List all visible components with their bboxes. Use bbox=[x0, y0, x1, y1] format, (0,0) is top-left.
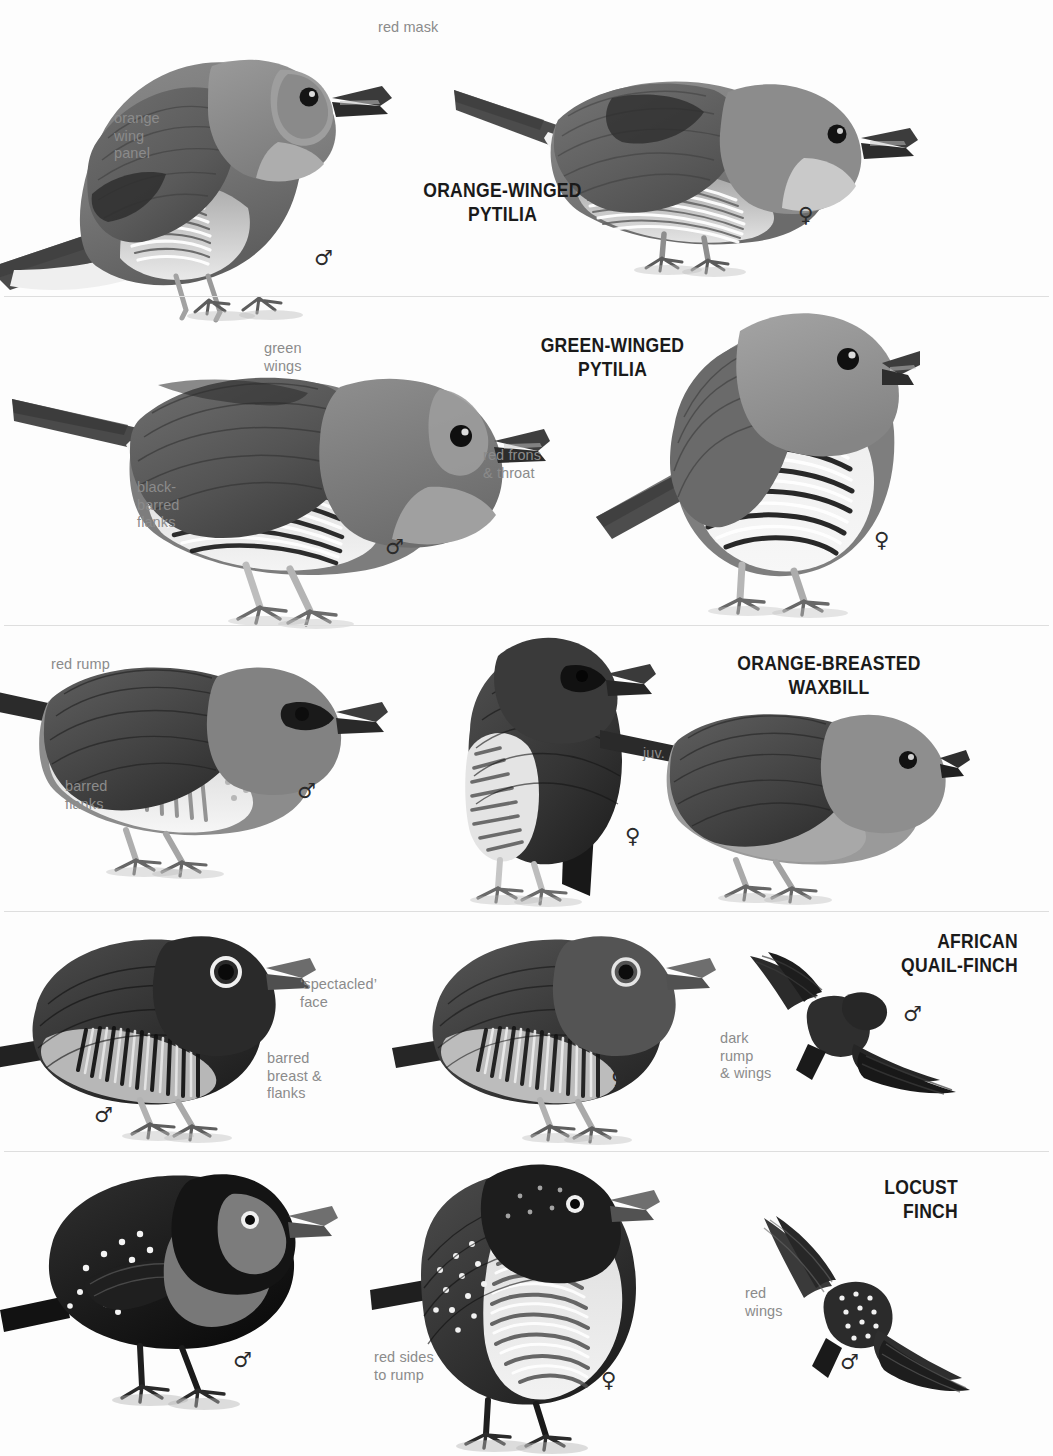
annotation-red-mask: red mask bbox=[378, 19, 438, 37]
sex-symbol-female: ♀ bbox=[798, 205, 813, 226]
sex-symbol-male-flight: ♂ bbox=[903, 1004, 922, 1025]
bird-locust-finch-female bbox=[370, 1160, 680, 1450]
bird-african-quail-finch-female bbox=[390, 934, 720, 1149]
annotation-juvenile: juv. bbox=[643, 745, 665, 763]
sex-symbol-female: ♀ bbox=[601, 1370, 616, 1391]
species-title-orange-winged-pytilia: ORANGE-WINGED PYTILIA bbox=[406, 178, 600, 226]
annotation-barred-flanks: barred flanks bbox=[65, 778, 108, 813]
sex-symbol-female: ♀ bbox=[874, 530, 889, 551]
sex-symbol-male: ♂ bbox=[233, 1350, 252, 1371]
annotation-red-frons-and-throat: red frons & throat bbox=[483, 447, 541, 482]
species-panel-african-quail-finch: ‘spectacled’ face barred breast & flanks… bbox=[0, 912, 1053, 1152]
annotation-barred-breast-and-flanks: barred breast & flanks bbox=[267, 1050, 322, 1103]
annotation-dark-rump-and-wings: dark rump & wings bbox=[720, 1030, 771, 1083]
bird-orange-winged-pytilia-female bbox=[452, 62, 922, 272]
annotation-red-sides-to-rump: red sides to rump bbox=[374, 1349, 434, 1384]
species-title-green-winged-pytilia: GREEN-WINGED PYTILIA bbox=[516, 333, 710, 381]
sex-symbol-male: ♂ bbox=[297, 781, 316, 802]
sex-symbol-male: ♂ bbox=[314, 248, 333, 269]
bird-orange-winged-pytilia-male bbox=[0, 18, 400, 323]
bird-green-winged-pytilia-male bbox=[10, 359, 550, 624]
species-title-african-quail-finch: AFRICAN QUAIL-FINCH bbox=[748, 929, 1018, 977]
sex-symbol-male-flight: ♂ bbox=[840, 1352, 859, 1373]
bird-orange-breasted-waxbill-male bbox=[0, 654, 390, 879]
annotation-orange-wing-panel: orange wing panel bbox=[114, 110, 160, 163]
species-panel-orange-breasted-waxbill: red rump barred flanks juv. ORANGE-BREAS… bbox=[0, 626, 1053, 912]
species-panel-locust-finch: red sides to rump red wings LOCUST FINCH… bbox=[0, 1152, 1053, 1456]
bird-orange-breasted-waxbill-juvenile bbox=[600, 704, 970, 884]
bird-locust-finch-male bbox=[0, 1172, 360, 1442]
annotation-black-barred-flanks: black- barred flanks bbox=[137, 479, 180, 532]
species-panel-green-winged-pytilia: green wings black- barred flanks red fro… bbox=[0, 297, 1053, 626]
annotation-red-wings: red wings bbox=[745, 1285, 783, 1320]
annotation-red-rump: red rump bbox=[51, 656, 110, 674]
annotation-green-wings: green wings bbox=[264, 340, 302, 375]
sex-symbol-female: ♀ bbox=[611, 1069, 626, 1090]
species-title-orange-breasted-waxbill: ORANGE-BREASTED WAXBILL bbox=[712, 651, 946, 699]
bird-african-quail-finch-male bbox=[0, 930, 320, 1140]
sex-symbol-male: ♂ bbox=[385, 537, 404, 558]
annotation-spectacled-face: ‘spectacled’ face bbox=[300, 976, 377, 1011]
species-panel-orange-winged-pytilia: red mask orange wing panel ORANGE-WINGED… bbox=[0, 0, 1053, 297]
sex-symbol-male: ♂ bbox=[94, 1105, 113, 1126]
species-title-locust-finch: LOCUST FINCH bbox=[688, 1175, 958, 1223]
field-guide-plate-page: red mask orange wing panel ORANGE-WINGED… bbox=[0, 0, 1053, 1456]
sex-symbol-female: ♀ bbox=[625, 826, 640, 847]
